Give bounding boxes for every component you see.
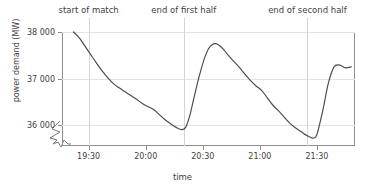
x-tick-label: 21:30 xyxy=(305,152,328,161)
x-axis-title: time xyxy=(0,172,365,182)
power-demand-chart: power demand (MW) time 36 00037 00038 00… xyxy=(0,0,365,190)
x-tick-mark xyxy=(146,146,147,150)
data-series-line xyxy=(62,32,355,146)
x-tick-label: 20:30 xyxy=(191,152,214,161)
x-tick-mark xyxy=(203,146,204,150)
x-tick-mark xyxy=(260,146,261,150)
x-tick-label: 19:30 xyxy=(77,152,100,161)
x-tick-label: 20:00 xyxy=(134,152,157,161)
annotation-label: end of second half xyxy=(268,5,347,15)
plot-area: 36 00037 00038 000 19:3020:0020:3021:002… xyxy=(62,32,355,146)
x-tick-label: 21:00 xyxy=(248,152,271,161)
annotation-label: start of match xyxy=(58,5,118,15)
x-tick-mark xyxy=(89,146,90,150)
x-tick-mark xyxy=(317,146,318,150)
y-tick-label: 38 000 xyxy=(27,28,55,37)
annotation-label: end of first half xyxy=(151,5,216,15)
y-axis-title: power demand (MW) xyxy=(12,1,21,121)
y-tick-label: 36 000 xyxy=(27,121,55,130)
y-tick-label: 37 000 xyxy=(27,74,55,83)
